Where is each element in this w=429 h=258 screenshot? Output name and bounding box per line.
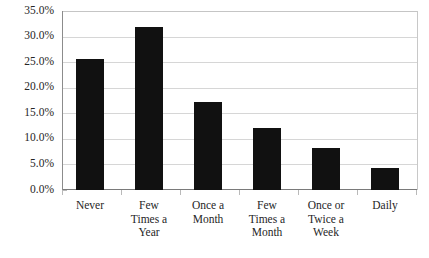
bar-never: [76, 59, 104, 190]
x-axis-label-few-times-a-month: Few Times a Month: [238, 199, 296, 240]
bar-few-times-a-year: [135, 27, 163, 190]
x-axis-label-once-or-twice-a-week: Once or Twice a Week: [297, 199, 355, 240]
x-axis-label-few-times-a-year: Few Times a Year: [120, 199, 178, 240]
x-tick-mark: [298, 190, 299, 195]
x-tick-mark: [239, 190, 240, 195]
x-axis-label-line: Year: [120, 226, 178, 240]
bar-once-or-twice-a-week: [312, 148, 340, 190]
x-tick-mark: [62, 190, 63, 195]
x-axis-label-daily: Daily: [356, 199, 414, 213]
x-axis-label-line: Twice a: [297, 213, 355, 227]
x-axis-label-line: Month: [179, 213, 237, 227]
bar-few-times-a-month: [253, 128, 281, 190]
y-axis-label: 10.0%: [0, 132, 54, 144]
x-axis-label-line: Times a: [238, 213, 296, 227]
x-axis-label-never: Never: [61, 199, 119, 213]
y-axis-label: 5.0%: [0, 158, 54, 170]
x-axis-label-line: Month: [238, 226, 296, 240]
y-axis-label: 20.0%: [0, 81, 54, 93]
bar-series: [63, 11, 417, 190]
y-axis-label: 0.0%: [0, 184, 54, 196]
x-axis-label-once-a-month: Once a Month: [179, 199, 237, 226]
x-tick-mark: [357, 190, 358, 195]
x-axis-label-line: Once a: [179, 199, 237, 213]
x-axis-label-line: Few: [238, 199, 296, 213]
x-axis-label-line: Never: [61, 199, 119, 213]
bar-once-a-month: [194, 102, 222, 190]
x-axis-label-line: Week: [297, 226, 355, 240]
x-tick-mark: [416, 190, 417, 195]
x-axis-label-line: Once or: [297, 199, 355, 213]
x-axis-label-line: Daily: [356, 199, 414, 213]
y-axis-label: 15.0%: [0, 107, 54, 119]
bar-chart: 35.0% 30.0% 25.0% 20.0% 15.0% 10.0% 5.0%…: [0, 0, 429, 258]
x-tick-mark: [180, 190, 181, 195]
x-axis-label-line: Times a: [120, 213, 178, 227]
x-axis: Never Few Times a Year Once a Month Few …: [62, 193, 418, 255]
y-axis-label: 35.0%: [0, 5, 54, 17]
bar-daily: [371, 168, 399, 190]
x-axis-label-line: Few: [120, 199, 178, 213]
y-axis-label: 25.0%: [0, 56, 54, 68]
plot-area: [62, 11, 418, 190]
y-axis: 35.0% 30.0% 25.0% 20.0% 15.0% 10.0% 5.0%…: [0, 0, 58, 258]
y-axis-label: 30.0%: [0, 30, 54, 42]
x-tick-mark: [121, 190, 122, 195]
